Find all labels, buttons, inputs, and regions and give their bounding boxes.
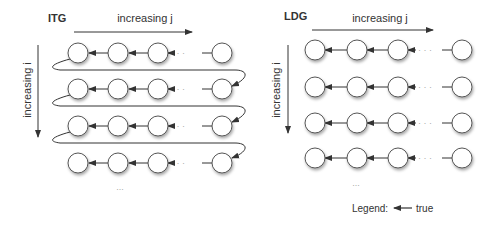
itg-row-3: · · ·: [68, 116, 232, 136]
svg-text:· · ·: · · ·: [418, 82, 432, 92]
node: [68, 43, 88, 63]
itg-row-2: · · ·: [68, 79, 232, 99]
itg-j-axis-label: increasing j: [117, 12, 173, 24]
ldg-row-2: · · ·: [305, 77, 472, 97]
svg-text:· · ·: · · ·: [418, 153, 432, 163]
legend: Legend: true: [352, 203, 434, 214]
ldg-rows: · · · · · ·: [305, 40, 472, 168]
itg-row-4: · · ·: [68, 153, 232, 173]
legend-label: Legend:: [352, 203, 388, 214]
svg-text:· · ·: · · ·: [418, 45, 432, 55]
node: [148, 43, 168, 63]
itg-panel: ITG increasing j increasing i · · ·: [21, 12, 245, 192]
ldg-row-1: · · ·: [305, 40, 472, 60]
itg-row-1: · · ·: [68, 43, 232, 63]
ldg-row-4: · · ·: [305, 148, 472, 168]
itg-i-axis-label: increasing i: [21, 62, 33, 118]
node: [108, 43, 128, 63]
svg-text:· · ·: · · ·: [418, 118, 432, 128]
legend-entry-true: true: [416, 203, 434, 214]
ldg-panel: LDG increasing j increasing i · · · · · …: [270, 10, 472, 188]
ldg-continuation: ...: [352, 178, 360, 188]
itg-title: ITG: [48, 12, 66, 24]
itg-continuation: ...: [116, 182, 124, 192]
itg-wraparound-edges: [53, 59, 246, 158]
diagram-canvas: ITG increasing j increasing i · · ·: [0, 0, 494, 226]
ldg-j-axis-label: increasing j: [352, 12, 408, 24]
ldg-i-axis-label: increasing i: [270, 62, 282, 118]
ldg-title: LDG: [284, 10, 307, 22]
node: [212, 43, 232, 63]
ldg-row-3: · · ·: [305, 113, 472, 133]
itg-rows: · · · · · ·: [68, 43, 232, 173]
